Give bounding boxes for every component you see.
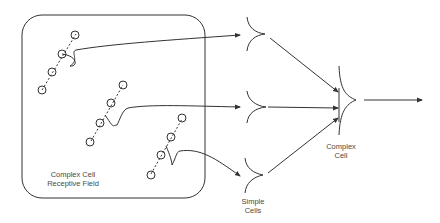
complex-cell <box>339 66 356 135</box>
complex-cell-diagram: Complex Cell Receptive Field Simple Cell… <box>0 0 440 223</box>
simple-cells-label-line1: Simple <box>242 197 265 206</box>
receptive-field-label-line1: Complex Cell <box>51 170 96 179</box>
receptive-cluster-2 <box>86 81 240 146</box>
receptive-cluster-3 <box>147 114 240 179</box>
simple-cell-2 <box>247 91 266 123</box>
complex-cell-label-line2: Cell <box>335 151 348 160</box>
receptive-field-label-line2: Receptive Field <box>47 179 99 188</box>
simple-cell-3 <box>245 158 263 193</box>
simple-cells-label-line2: Cells <box>245 206 262 215</box>
simple-cell-1 <box>247 17 265 51</box>
receptive-cluster-1 <box>38 31 240 94</box>
complex-cell-label-line1: Complex <box>326 142 356 151</box>
